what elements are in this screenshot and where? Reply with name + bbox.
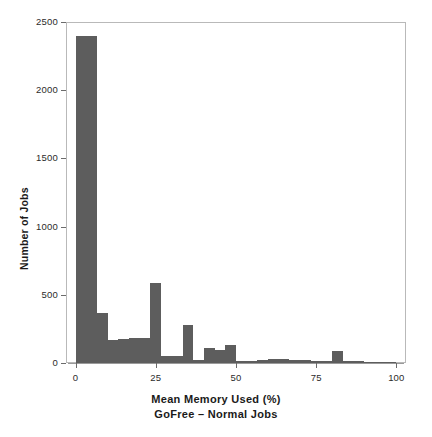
x-tick (316, 363, 317, 368)
y-tick-label: 2000 (18, 84, 58, 95)
histogram-bar (76, 36, 87, 363)
histogram-bars (66, 22, 406, 363)
histogram-bar (97, 313, 108, 363)
x-axis-label: Mean Memory Used (%) (0, 393, 432, 405)
histogram-bar (204, 348, 215, 363)
y-tick (61, 22, 66, 23)
histogram-bar (118, 339, 129, 363)
y-tick (61, 295, 66, 296)
y-axis-label: Number of Jobs (18, 187, 30, 270)
histogram-bar (183, 325, 194, 363)
histogram-bar (215, 350, 226, 363)
x-axis-sublabel: GoFree – Normal Jobs (0, 408, 432, 420)
x-tick-label: 50 (216, 372, 256, 383)
histogram-bar (332, 351, 343, 363)
y-tick (61, 363, 66, 364)
x-tick-label: 100 (376, 372, 416, 383)
x-tick (156, 363, 157, 368)
x-tick (396, 363, 397, 368)
histogram-figure: 05001000150020002500 0255075100 Number o… (0, 0, 432, 437)
y-tick-label: 500 (18, 289, 58, 300)
y-tick-label: 0 (18, 357, 58, 368)
y-tick (61, 158, 66, 159)
histogram-bar (225, 345, 236, 363)
x-tick-label: 75 (296, 372, 336, 383)
histogram-bar (150, 283, 161, 363)
histogram-bar (161, 356, 172, 364)
y-tick-label: 1500 (18, 152, 58, 163)
histogram-bar (172, 356, 183, 363)
y-tick-label: 2500 (18, 16, 58, 27)
histogram-bar (108, 340, 119, 363)
y-tick (61, 227, 66, 228)
histogram-bar (86, 36, 97, 363)
x-tick (76, 363, 77, 368)
x-tick-label: 25 (136, 372, 176, 383)
y-tick (61, 90, 66, 91)
x-tick (236, 363, 237, 368)
x-tick-label: 0 (56, 372, 96, 383)
histogram-bar (140, 338, 151, 363)
histogram-bar (129, 338, 140, 363)
